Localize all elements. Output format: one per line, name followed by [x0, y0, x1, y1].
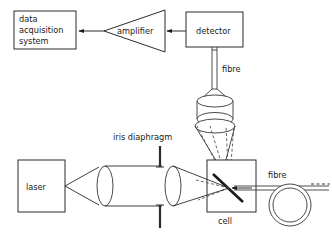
collimating-lens: [97, 166, 113, 206]
amplifier-block: amplifier: [104, 10, 165, 52]
data-acquisition-label-line1: data: [19, 14, 37, 24]
focusing-lens: [165, 166, 181, 206]
amplifier-label: amplifier: [117, 26, 154, 36]
fibre-top-label: fibre: [222, 64, 241, 74]
beam-edge-lower: [65, 186, 99, 205]
beam-edge-upper: [65, 167, 99, 186]
collimated-beam: [105, 166, 162, 206]
cell-block: cell: [196, 160, 256, 226]
fibre-vertical-run: fibre: [212, 47, 241, 89]
lens-element-top: [197, 95, 233, 107]
detector-block: detector: [186, 12, 243, 47]
laser-block: laser: [18, 160, 65, 212]
fibre-right-label: fibre: [268, 170, 287, 180]
apparatus-diagram: data acquisition system amplifier detect…: [0, 0, 332, 239]
diagram-root: data acquisition system amplifier detect…: [0, 0, 332, 239]
iris-diaphragm: iris diaphragm: [113, 132, 172, 228]
iris-diaphragm-label: iris diaphragm: [113, 132, 172, 142]
fibre-coil-inner: [273, 188, 307, 222]
data-acquisition-label-line2: acquisition: [19, 25, 63, 35]
laser-label: laser: [26, 182, 47, 192]
detector-label: detector: [196, 26, 231, 36]
data-acquisition-label-line3: system: [19, 36, 49, 46]
laser-output-beam: [65, 167, 99, 205]
data-acquisition-system-block: data acquisition system: [14, 11, 76, 49]
lens-element-bottom: [195, 119, 235, 133]
collection-optic: [195, 89, 235, 167]
cell-label: cell: [218, 216, 232, 226]
